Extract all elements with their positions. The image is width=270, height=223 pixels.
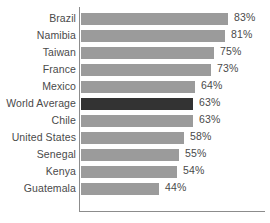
bar-value-label: 64% xyxy=(201,79,222,92)
category-label: France xyxy=(43,62,76,80)
bar-track xyxy=(81,13,228,25)
category-label: Kenya xyxy=(46,164,76,182)
table-row: Mexico 64% xyxy=(0,79,270,96)
bar-track xyxy=(81,132,184,144)
bar-rows: Brazil 83% Namibia 81% Taiwan 75% xyxy=(0,11,270,198)
bar-value-label: 44% xyxy=(165,181,186,194)
table-row: United States 58% xyxy=(0,130,270,147)
table-row: Kenya 54% xyxy=(0,164,270,181)
bar-value-label: 73% xyxy=(217,62,238,75)
bar-value-label: 55% xyxy=(185,147,206,160)
bar xyxy=(81,13,228,25)
y-axis-line xyxy=(79,7,80,212)
bar xyxy=(81,47,214,59)
bar-value-label: 54% xyxy=(183,164,204,177)
table-row: Guatemala 44% xyxy=(0,181,270,198)
category-label: United States xyxy=(12,130,76,148)
bar-value-label: 58% xyxy=(190,130,211,143)
bar xyxy=(81,81,195,93)
bar-value-label: 81% xyxy=(231,28,252,41)
plot-area: Brazil 83% Namibia 81% Taiwan 75% xyxy=(0,0,270,223)
bar xyxy=(81,166,177,178)
bar xyxy=(81,149,179,161)
bar xyxy=(81,115,193,127)
bar-value-label: 83% xyxy=(234,11,255,24)
bar xyxy=(81,183,159,195)
bar xyxy=(81,132,184,144)
table-row: Taiwan 75% xyxy=(0,45,270,62)
category-label: Mexico xyxy=(42,79,76,97)
table-row: Senegal 55% xyxy=(0,147,270,164)
bar-track xyxy=(81,47,214,59)
bar-track xyxy=(81,166,177,178)
bar-value-label: 63% xyxy=(199,113,220,126)
x-axis-line xyxy=(79,211,265,212)
category-label: Namibia xyxy=(37,28,76,46)
category-label: Brazil xyxy=(49,11,76,29)
bar-chart: Brazil 83% Namibia 81% Taiwan 75% xyxy=(0,0,270,223)
bar-track xyxy=(81,149,179,161)
bar-highlighted xyxy=(81,98,193,110)
bar-track xyxy=(81,115,193,127)
bar-track xyxy=(81,30,225,42)
category-label: Taiwan xyxy=(43,45,76,63)
table-row: Namibia 81% xyxy=(0,28,270,45)
category-label: Chile xyxy=(52,113,76,131)
table-row: World Average 63% xyxy=(0,96,270,113)
bar xyxy=(81,30,225,42)
category-label: Guatemala xyxy=(24,181,76,199)
table-row: France 73% xyxy=(0,62,270,79)
bar-value-label: 75% xyxy=(220,45,241,58)
bar-value-label: 63% xyxy=(199,96,220,109)
category-label: Senegal xyxy=(37,147,76,165)
bar-track xyxy=(81,98,193,110)
bar xyxy=(81,64,211,76)
bar-track xyxy=(81,183,159,195)
table-row: Chile 63% xyxy=(0,113,270,130)
bar-track xyxy=(81,64,211,76)
bar-track xyxy=(81,81,195,93)
category-label: World Average xyxy=(6,96,76,114)
table-row: Brazil 83% xyxy=(0,11,270,28)
